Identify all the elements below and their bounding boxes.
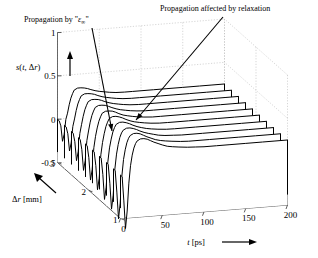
tick-label-t-3[interactable]: 150: [242, 213, 256, 223]
tickmark-t[interactable]: [161, 215, 163, 219]
tick-label-t-4[interactable]: 200: [284, 210, 298, 220]
tick-label-t-2[interactable]: 100: [200, 217, 214, 227]
plot-canvas: 050100150200-0.500.51123s(t, Δr)t [ps]Δr…: [0, 0, 318, 258]
tick-label-s-1[interactable]: 0: [51, 115, 56, 125]
tick-label-s-2[interactable]: 0.5: [44, 71, 56, 81]
trace-mask[interactable]: [121, 139, 288, 229]
anno-relaxation-label[interactable]: Propagation affected by relaxation: [160, 4, 270, 13]
axis-label-t[interactable]: t [ps]: [187, 237, 205, 247]
trace-group[interactable]: [121, 139, 288, 229]
s-axis-arrowhead[interactable]: [67, 51, 73, 59]
tickmark-t[interactable]: [286, 205, 288, 209]
tickmark-t[interactable]: [119, 219, 121, 223]
anno-eps-inf-label[interactable]: Propagation by "ε∞": [24, 15, 89, 25]
tick-label-t-1[interactable]: 50: [161, 220, 171, 230]
tick-label-dr-1[interactable]: 2: [82, 187, 87, 197]
tick-label-s-3[interactable]: 1: [51, 28, 56, 38]
figure-3d-waterfall-plot: 050100150200-0.500.51123s(t, Δr)t [ps]Δr…: [0, 0, 318, 258]
tickmark-t[interactable]: [203, 212, 205, 216]
dr-axis-arrow[interactable]: [38, 177, 56, 193]
tickmark-t[interactable]: [244, 208, 246, 212]
waterfall-traces: [58, 84, 288, 229]
axis-label-dr[interactable]: Δr [mm]: [12, 194, 42, 204]
t-axis-arrowhead[interactable]: [249, 239, 257, 245]
tick-label-dr-2[interactable]: 3: [50, 159, 55, 169]
axis-label-s[interactable]: s(t, Δr): [16, 62, 41, 72]
tick-label-dr-0[interactable]: 1: [113, 215, 118, 225]
